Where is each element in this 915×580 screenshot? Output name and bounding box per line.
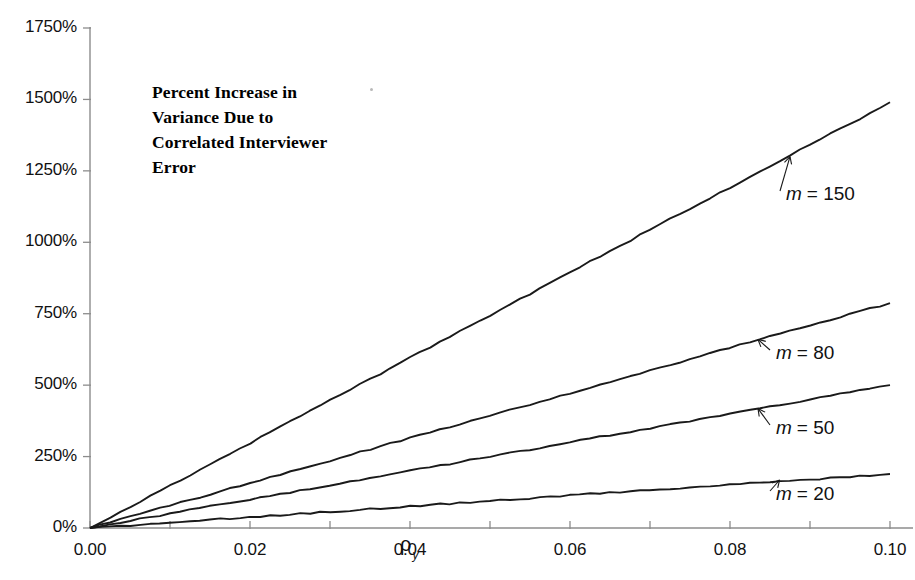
series-label-value: = 80 — [797, 342, 835, 363]
y-axis-tick-label: 1750% — [0, 17, 77, 37]
series-label-m-20: m= 20 — [776, 483, 834, 505]
series-line-m-80 — [90, 303, 890, 528]
x-axis-title-subscript: y — [412, 548, 418, 562]
chart-title: Percent Increase in Variance Due to Corr… — [152, 80, 327, 180]
series-label-m-150: m= 150 — [786, 183, 855, 205]
chart-figure: 0%250%500%750%1000%1250%1500%1750% 0.000… — [0, 0, 915, 580]
y-axis-tick-label: 1250% — [0, 160, 77, 180]
series-label-symbol: m — [776, 483, 797, 504]
scan-artifact-dot — [370, 88, 373, 91]
annotation-arrow-head — [790, 157, 792, 165]
annotation-arrows — [758, 157, 792, 491]
x-axis-title-symbol: ρ — [400, 533, 411, 555]
series-label-value: = 150 — [807, 183, 855, 204]
x-axis-tick-label: 0.02 — [210, 540, 290, 560]
y-axis-tick-label: 1500% — [0, 88, 77, 108]
y-axis-tick-label: 0% — [0, 517, 77, 537]
x-axis-tick-label: 0.08 — [690, 540, 770, 560]
y-axis-tick-label: 1000% — [0, 231, 77, 251]
series-label-m-50: m= 50 — [776, 417, 834, 439]
series-label-value: = 50 — [797, 417, 835, 438]
series-label-symbol: m — [786, 183, 807, 204]
series-label-symbol: m — [776, 417, 797, 438]
series-line-m-20 — [90, 474, 890, 528]
series-line-m-50 — [90, 385, 890, 528]
series-label-symbol: m — [776, 342, 797, 363]
y-axis-tick-label: 750% — [0, 303, 77, 323]
series-label-value: = 20 — [797, 483, 835, 504]
y-axis-tick-label: 250% — [0, 446, 77, 466]
x-axis-tick-label: 0.10 — [850, 540, 915, 560]
x-axis-tick-label: 0.00 — [50, 540, 130, 560]
series-label-m-80: m= 80 — [776, 342, 834, 364]
x-axis-title: ρy — [400, 533, 417, 559]
x-axis-tick-label: 0.06 — [530, 540, 610, 560]
y-axis-tick-label: 500% — [0, 374, 77, 394]
